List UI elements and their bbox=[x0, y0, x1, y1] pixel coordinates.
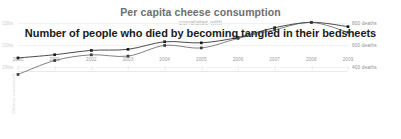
data-point-2001 bbox=[53, 59, 56, 62]
plot-area: 2000200120022003200420052006200720082009… bbox=[0, 56, 401, 139]
data-point-2004 bbox=[163, 44, 166, 47]
data-point-2000 bbox=[17, 57, 20, 60]
data-point-2003 bbox=[127, 55, 130, 58]
y-axis-left-tick-33: 33lbs bbox=[2, 21, 13, 26]
data-point-2009 bbox=[347, 25, 350, 28]
data-point-2005 bbox=[200, 47, 203, 50]
data-point-2006 bbox=[237, 37, 240, 40]
chart-title-block: Per capita cheese consumption correlates… bbox=[0, 0, 401, 40]
series-layer bbox=[0, 56, 401, 139]
y-axis-left-tick-31: 31lbs bbox=[2, 43, 13, 48]
gridline bbox=[18, 45, 348, 46]
data-point-2002 bbox=[90, 53, 93, 56]
data-point-2007 bbox=[273, 28, 276, 31]
data-point-2009 bbox=[347, 31, 350, 34]
y-axis-right-tick-600: 600 deaths bbox=[352, 43, 377, 48]
data-point-2000 bbox=[17, 73, 20, 76]
spurious-correlation-chart: Per capita cheese consumption correlates… bbox=[0, 0, 401, 139]
data-point-2005 bbox=[200, 41, 203, 44]
data-point-2004 bbox=[163, 40, 166, 43]
data-point-2002 bbox=[90, 49, 93, 52]
data-point-2003 bbox=[127, 48, 130, 51]
data-point-2001 bbox=[53, 53, 56, 56]
chart-title-secondary: Number of people who died by becoming ta… bbox=[0, 27, 401, 40]
chart-title-primary: Per capita cheese consumption bbox=[0, 6, 401, 18]
data-point-2008 bbox=[310, 21, 313, 24]
y-axis-right-tick-800: 800 deaths bbox=[352, 21, 377, 26]
